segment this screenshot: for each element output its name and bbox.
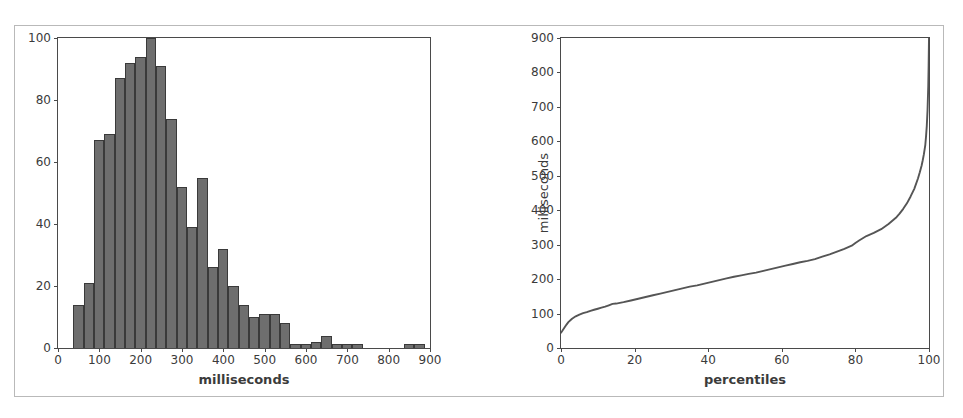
y-tick-label: 80 <box>36 93 51 107</box>
y-tick-label: 100 <box>531 307 554 321</box>
histogram-bars <box>58 38 430 348</box>
histogram-bar <box>270 314 280 348</box>
y-tick-label: 0 <box>546 341 554 355</box>
x-tick-mark <box>58 348 59 352</box>
x-tick-label: 80 <box>848 353 863 367</box>
x-tick-mark <box>306 348 307 352</box>
x-tick-mark <box>99 348 100 352</box>
x-tick-mark <box>708 348 709 352</box>
y-tick-mark <box>557 279 561 280</box>
histogram-bar <box>228 286 238 348</box>
histogram-panel: 0100200300400500600700800900 02040608010… <box>15 26 478 396</box>
x-tick-label: 100 <box>88 353 111 367</box>
y-tick-mark <box>557 245 561 246</box>
y-tick-mark <box>54 286 58 287</box>
x-tick-label: 300 <box>171 353 194 367</box>
histogram-bar <box>218 249 228 348</box>
y-tick-mark <box>54 348 58 349</box>
x-tick-mark <box>561 348 562 352</box>
cdf-curve-svg <box>561 38 929 348</box>
histogram-bar <box>352 344 362 348</box>
x-tick-label: 20 <box>627 353 642 367</box>
x-tick-label: 100 <box>918 353 941 367</box>
x-tick-mark <box>223 348 224 352</box>
x-tick-mark <box>430 348 431 352</box>
histogram-bar <box>177 187 187 348</box>
x-tick-mark <box>855 348 856 352</box>
x-tick-label: 700 <box>336 353 359 367</box>
x-tick-label: 800 <box>377 353 400 367</box>
x-tick-label: 60 <box>774 353 789 367</box>
histogram-bar <box>321 336 331 348</box>
x-tick-mark <box>389 348 390 352</box>
x-tick-label: 600 <box>295 353 318 367</box>
y-tick-mark <box>54 224 58 225</box>
y-tick-label: 700 <box>531 100 554 114</box>
x-tick-label: 900 <box>419 353 442 367</box>
y-tick-mark <box>557 72 561 73</box>
histogram-bar <box>290 344 300 348</box>
x-tick-mark <box>265 348 266 352</box>
x-tick-label: 400 <box>212 353 235 367</box>
histogram-bar <box>73 305 83 348</box>
y-tick-label: 0 <box>43 341 51 355</box>
y-tick-mark <box>557 38 561 39</box>
x-tick-label: 200 <box>129 353 152 367</box>
x-tick-mark <box>929 348 930 352</box>
cdf-y-axis-label: milliseconds <box>536 153 551 233</box>
y-tick-label: 900 <box>531 31 554 45</box>
histogram-bar <box>249 317 259 348</box>
x-tick-label: 0 <box>557 353 565 367</box>
histogram-bar <box>404 344 414 348</box>
histogram-x-axis-label: milliseconds <box>58 372 430 387</box>
histogram-bar <box>280 323 290 348</box>
y-tick-mark <box>557 176 561 177</box>
cdf-panel: 020406080100 010020030040050060070080090… <box>478 26 944 396</box>
y-tick-label: 600 <box>531 134 554 148</box>
histogram-bar <box>311 342 321 348</box>
y-tick-label: 200 <box>531 272 554 286</box>
histogram-bar <box>135 57 145 348</box>
x-tick-label: 500 <box>253 353 276 367</box>
y-tick-mark <box>557 107 561 108</box>
cdf-plot-area: 020406080100 010020030040050060070080090… <box>560 37 930 349</box>
y-tick-label: 40 <box>36 217 51 231</box>
histogram-bar <box>115 78 125 348</box>
y-tick-mark <box>54 100 58 101</box>
y-tick-label: 800 <box>531 65 554 79</box>
y-tick-label: 20 <box>36 279 51 293</box>
histogram-bar <box>259 314 269 348</box>
histogram-bar <box>104 134 114 348</box>
x-tick-mark <box>782 348 783 352</box>
histogram-bar <box>94 140 104 348</box>
x-tick-label: 40 <box>701 353 716 367</box>
y-tick-mark <box>557 348 561 349</box>
y-tick-mark <box>557 314 561 315</box>
histogram-bar <box>414 344 424 348</box>
x-tick-mark <box>182 348 183 352</box>
histogram-plot-area: 0100200300400500600700800900 02040608010… <box>57 37 431 349</box>
x-tick-mark <box>141 348 142 352</box>
histogram-bar <box>187 227 197 348</box>
histogram-bar <box>239 305 249 348</box>
histogram-bar <box>84 283 94 348</box>
y-tick-mark <box>54 162 58 163</box>
y-tick-label: 300 <box>531 238 554 252</box>
histogram-bar <box>208 267 218 348</box>
histogram-bar <box>146 38 156 348</box>
figure-frame: 0100200300400500600700800900 02040608010… <box>14 25 944 397</box>
histogram-bar <box>197 178 207 349</box>
y-tick-label: 100 <box>28 31 51 45</box>
x-tick-mark <box>635 348 636 352</box>
cdf-curve-line <box>561 38 929 333</box>
y-tick-mark <box>557 141 561 142</box>
histogram-bar <box>156 66 166 348</box>
x-tick-mark <box>347 348 348 352</box>
histogram-bar <box>125 63 135 348</box>
y-tick-mark <box>557 210 561 211</box>
y-tick-label: 60 <box>36 155 51 169</box>
cdf-x-axis-label: percentiles <box>561 372 929 387</box>
x-tick-label: 0 <box>54 353 62 367</box>
histogram-bar <box>166 119 176 348</box>
y-tick-mark <box>54 38 58 39</box>
